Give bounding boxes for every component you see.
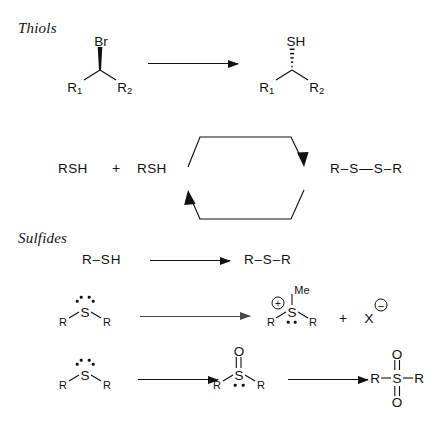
- atom-label-s-sulfoxide: S: [234, 368, 243, 383]
- atom-label-r-left-sulfone: R: [370, 371, 380, 386]
- r1-base-product: R: [259, 80, 269, 95]
- atom-label-s-sulfone: S: [392, 371, 401, 386]
- lone-pair-dot: [80, 359, 83, 362]
- species-rsh-first: RSH: [58, 161, 88, 176]
- section-heading-thiols: Thiols: [18, 20, 57, 37]
- atom-label-me: Me: [294, 284, 309, 296]
- atom-label-r-right-row2: R: [103, 379, 111, 391]
- atom-label-r2-reactant: R2: [117, 80, 132, 96]
- atom-label-r-right-sulfoxide: R: [257, 379, 265, 391]
- r2-base: R: [117, 80, 127, 95]
- lone-pair-dot: [234, 384, 237, 387]
- atom-label-r-left-sulfoxide: R: [213, 379, 221, 391]
- lone-pair-dot: [76, 300, 79, 303]
- negative-charge-glyph: –: [378, 300, 384, 310]
- lone-pair-dot: [76, 363, 79, 366]
- negative-charge-icon: –: [375, 299, 388, 312]
- positive-charge-icon: +: [272, 297, 285, 310]
- atom-label-r2-product: R2: [309, 80, 324, 96]
- reaction-arrow-thiol-substitution: [148, 63, 238, 64]
- plus-operator-sulfonium: +: [339, 310, 347, 326]
- atom-label-o-sulfone-bottom: O: [392, 395, 403, 410]
- atom-label-r-left-row1: R: [59, 316, 67, 328]
- r2-subscript: 2: [127, 85, 133, 96]
- lone-pair-dot: [80, 296, 83, 299]
- diagram-canvas: Thiols Sulfides Br R1 R2 SH R1 R2 RSH + …: [0, 0, 437, 425]
- atom-label-s-reactant-row1: S: [80, 305, 89, 320]
- reaction-arrow-sulfonium-formation: [140, 316, 250, 317]
- reaction-arrow-to-sulfone: [288, 379, 368, 380]
- atom-label-s-reactant-row2: S: [80, 368, 89, 383]
- reaction-arrow-to-sulfoxide: [138, 379, 218, 380]
- reaction-arrow-sulfide-formation: [150, 260, 230, 261]
- lone-pair-dot: [88, 296, 91, 299]
- atom-label-r1-product: R1: [259, 80, 274, 96]
- lone-pair-dot: [294, 321, 297, 324]
- r2-subscript-product: 2: [319, 85, 325, 96]
- lone-pair-dot: [242, 384, 245, 387]
- atom-label-o-sulfoxide-top: O: [234, 344, 245, 359]
- r1-subscript: 1: [77, 85, 83, 96]
- atom-label-o-sulfone-top: O: [392, 347, 403, 362]
- r1-base: R: [67, 80, 77, 95]
- equilibrium-arrow-bottom: [189, 190, 304, 219]
- section-heading-sulfides: Sulfides: [18, 230, 67, 247]
- species-r-s-r: R–S–R: [244, 252, 292, 267]
- atom-label-r1-reactant: R1: [67, 80, 82, 96]
- species-rsh-second: RSH: [137, 161, 167, 176]
- positive-charge-glyph: +: [275, 298, 281, 308]
- atom-label-s-sulfonium: S: [287, 305, 296, 320]
- r2-base-product: R: [309, 80, 319, 95]
- r1-subscript-product: 1: [269, 85, 275, 96]
- reactant-skeleton-bromide: [84, 47, 116, 80]
- atom-label-r-right-sulfonium: R: [309, 316, 317, 328]
- atom-label-r-left-row2: R: [59, 379, 67, 391]
- atom-label-br: Br: [94, 34, 108, 49]
- species-disulfide: R–S—S–R: [330, 161, 403, 176]
- species-r-sh: R–SH: [82, 252, 121, 267]
- equilibrium-arrowhead-top: [297, 152, 309, 167]
- equilibrium-arrowhead-bottom: [184, 190, 195, 205]
- product-skeleton-thiol: [276, 49, 308, 80]
- atom-label-sh: SH: [287, 34, 306, 49]
- plus-operator-disulfide: +: [112, 160, 120, 176]
- atom-label-x-counterion: X: [364, 311, 373, 326]
- atom-label-r-left-sulfonium: R: [267, 316, 275, 328]
- lone-pair-dot: [287, 321, 290, 324]
- lone-pair-dot: [92, 363, 95, 366]
- atom-label-r-right-sulfone: R: [414, 371, 424, 386]
- lone-pair-dot: [92, 300, 95, 303]
- equilibrium-arrow-top: [188, 137, 304, 167]
- atom-label-r-right-row1: R: [103, 316, 111, 328]
- lone-pair-dot: [88, 359, 91, 362]
